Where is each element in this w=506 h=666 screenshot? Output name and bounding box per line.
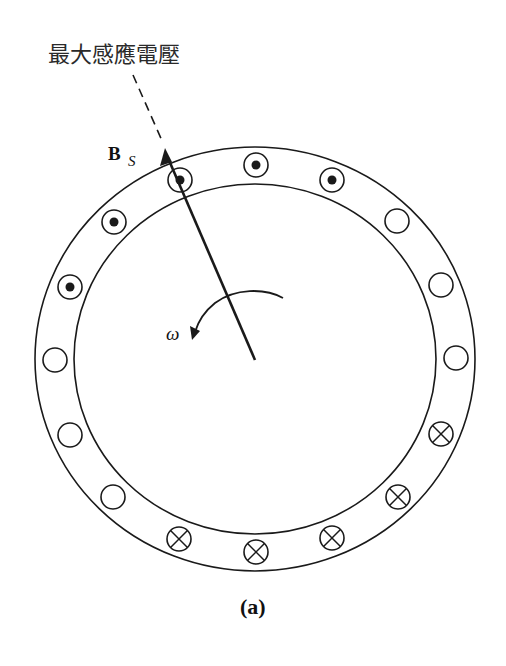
rotation-arrowhead-icon: [190, 326, 200, 340]
slot-current-out-icon: [58, 275, 82, 299]
slot-current-in-icon: [244, 540, 268, 564]
stator-diagram: 最大感應電壓 B S ω (a): [0, 0, 506, 666]
slot-empty-icon: [101, 485, 125, 509]
omega-label: ω: [166, 323, 179, 344]
bs-subscript: S: [128, 153, 136, 169]
slot-current-out-icon: [320, 168, 344, 192]
slot-current-out-icon: [102, 210, 126, 234]
slot-empty-icon: [43, 348, 67, 372]
slot-current-in-icon: [167, 527, 191, 551]
slot-current-in-icon: [429, 422, 453, 446]
slot-current-in-icon: [386, 485, 410, 509]
slot-empty-icon: [385, 209, 409, 233]
slot-current-in-icon: [320, 526, 344, 550]
bs-symbol: B: [108, 143, 121, 164]
max-induced-voltage-label: 最大感應電壓: [48, 42, 180, 67]
slot-empty-icon: [58, 423, 82, 447]
figure-caption: (a): [240, 594, 266, 619]
slot-current-out-icon: [244, 153, 268, 177]
slot-empty-icon: [444, 346, 468, 370]
max-voltage-direction-dashed-line: [133, 75, 163, 143]
slot-empty-icon: [429, 273, 453, 297]
